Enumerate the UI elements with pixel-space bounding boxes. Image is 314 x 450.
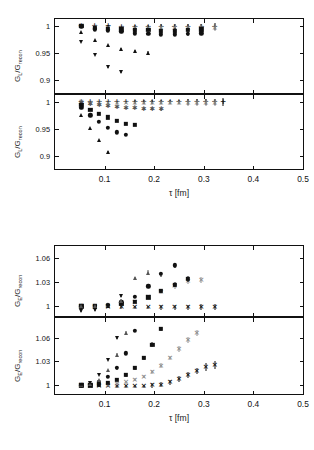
x-tick	[204, 90, 205, 94]
figure-electric: 1.061.031β = 6.1GE/Grecon0.87Tc×1.07Tc×1…	[0, 225, 314, 450]
figure-longitudinal: 10.950.9β = 6.1GL/Grecon0.87Tc+1.07Tc×1.…	[0, 0, 314, 225]
data-point	[97, 378, 101, 382]
error-bar	[174, 33, 175, 36]
error-bar	[170, 380, 171, 385]
x-tick	[105, 95, 106, 99]
x-tick-label: 0.1	[91, 399, 119, 409]
data-point	[88, 108, 92, 112]
data-point	[106, 358, 110, 362]
data-point	[106, 375, 110, 379]
panel-beta-6.1-GL: +++++++++++×××××××××××	[54, 18, 304, 94]
x-tick	[204, 246, 205, 250]
figure-root: 10.950.9β = 6.1GL/Grecon0.87Tc+1.07Tc×1.…	[0, 0, 314, 450]
error-bar	[152, 342, 153, 347]
x-tick	[154, 246, 155, 250]
error-bar	[117, 367, 118, 370]
y-axis-title: GL/Grecon	[13, 50, 22, 82]
error-bar	[187, 32, 188, 36]
x-tick	[204, 166, 205, 170]
x-tick	[253, 391, 254, 395]
error-bar	[134, 306, 135, 309]
data-point	[88, 381, 92, 385]
error-bar	[214, 99, 215, 106]
error-bar	[121, 294, 122, 297]
y-tick	[300, 258, 304, 259]
error-bar	[174, 282, 175, 287]
y-tick	[55, 129, 59, 130]
error-bar	[161, 363, 162, 368]
error-bar	[134, 367, 135, 370]
error-bar	[161, 289, 162, 294]
y-tick	[300, 282, 304, 283]
error-bar	[125, 102, 126, 104]
error-bar	[152, 107, 153, 110]
error-bar	[152, 102, 153, 105]
y-tick-label: 1.06	[8, 254, 50, 263]
x-tick	[253, 90, 254, 94]
x-tick	[253, 318, 254, 322]
error-bar	[143, 107, 144, 110]
x-tick	[105, 318, 106, 322]
error-bar	[161, 108, 162, 111]
x-tick	[253, 166, 254, 170]
error-bar	[108, 30, 109, 32]
y-tick	[55, 26, 59, 27]
panel-beta-6.5-GL: +++++++++++++++++××××××××××××××××✱✱✱✱✱✱✱…	[54, 94, 304, 170]
y-tick	[55, 80, 59, 81]
error-bar	[148, 32, 149, 35]
x-tick	[154, 19, 155, 23]
y-axis-title: GL/Grecon	[13, 126, 22, 158]
y-tick	[55, 102, 59, 103]
error-bar	[148, 306, 149, 309]
data-point	[88, 126, 92, 130]
x-axis-title: τ [fm]	[54, 413, 304, 423]
error-bar	[148, 296, 149, 299]
y-tick	[300, 80, 304, 81]
data-point: ×	[92, 24, 98, 31]
y-tick	[300, 129, 304, 130]
data-point: ×	[105, 383, 111, 390]
data-point	[106, 368, 110, 372]
error-bar	[108, 116, 109, 118]
data-point	[88, 382, 92, 386]
x-tick	[105, 166, 106, 170]
x-tick	[154, 166, 155, 170]
error-bar	[134, 107, 135, 109]
error-bar	[125, 122, 126, 124]
x-tick-label: 0.2	[140, 399, 168, 409]
error-bar	[161, 29, 162, 32]
x-tick	[154, 95, 155, 99]
error-bar	[121, 306, 122, 309]
x-tick-label: 0.1	[91, 174, 119, 184]
data-point	[79, 383, 83, 387]
data-point	[97, 373, 101, 377]
x-tick	[154, 391, 155, 395]
data-point	[79, 106, 83, 110]
data-point	[79, 103, 83, 107]
error-bar	[161, 305, 162, 310]
x-tick	[154, 318, 155, 322]
data-point: ×	[105, 381, 111, 388]
error-bar	[148, 51, 149, 54]
data-point	[79, 25, 83, 29]
data-point	[79, 40, 83, 44]
data-point	[97, 380, 101, 384]
error-bar	[134, 124, 135, 126]
y-tick	[55, 306, 59, 307]
y-tick	[55, 156, 59, 157]
x-tick-label: 0.3	[190, 174, 218, 184]
data-point: ×	[96, 383, 102, 390]
error-bar	[187, 305, 188, 310]
data-point: ×	[78, 382, 84, 389]
error-bar	[108, 127, 109, 129]
plot-area: ××××××××××××××××××××××××××××××	[55, 318, 303, 394]
data-point	[106, 43, 110, 47]
data-point	[79, 30, 83, 34]
data-point	[79, 113, 83, 117]
y-tick	[55, 385, 59, 386]
error-bar	[108, 306, 109, 308]
x-tick-label: 0.4	[239, 174, 267, 184]
error-bar	[134, 378, 135, 381]
error-bar	[121, 299, 122, 302]
error-bar	[187, 337, 188, 343]
